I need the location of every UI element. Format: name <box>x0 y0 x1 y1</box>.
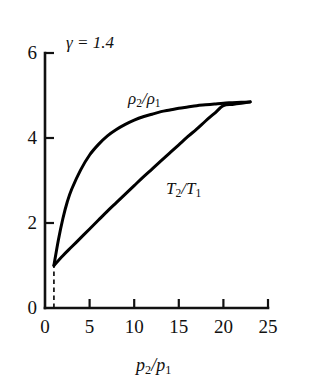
density-ratio-label: ρ2/ρ1 <box>128 90 161 110</box>
x-tick-label-0: 0 <box>31 317 59 336</box>
temperature-ratio-label: T2/T1 <box>166 180 201 200</box>
y-tick-label-2: 2 <box>17 213 37 232</box>
gamma-annotation: γ = 1.4 <box>66 34 114 51</box>
x-tick-label-15: 15 <box>165 317 193 336</box>
y-axis-ticks <box>45 53 54 223</box>
temperature-ratio-curve <box>54 102 250 266</box>
x-axis-title: p2/p1 <box>136 356 171 377</box>
x-tick-label-25: 25 <box>254 317 282 336</box>
normal-shock-relations-chart: 0246 0510152025 γ = 1.4 ρ2/ρ1 T2/T1 p2/p… <box>0 0 315 392</box>
y-tick-label-6: 6 <box>17 43 37 62</box>
x-tick-label-5: 5 <box>76 317 104 336</box>
x-axis-ticks <box>90 299 268 308</box>
x-tick-label-20: 20 <box>209 317 237 336</box>
y-tick-label-4: 4 <box>17 128 37 147</box>
density-ratio-curve <box>54 102 250 266</box>
x-tick-label-10: 10 <box>120 317 148 336</box>
y-tick-label-0: 0 <box>17 298 37 317</box>
